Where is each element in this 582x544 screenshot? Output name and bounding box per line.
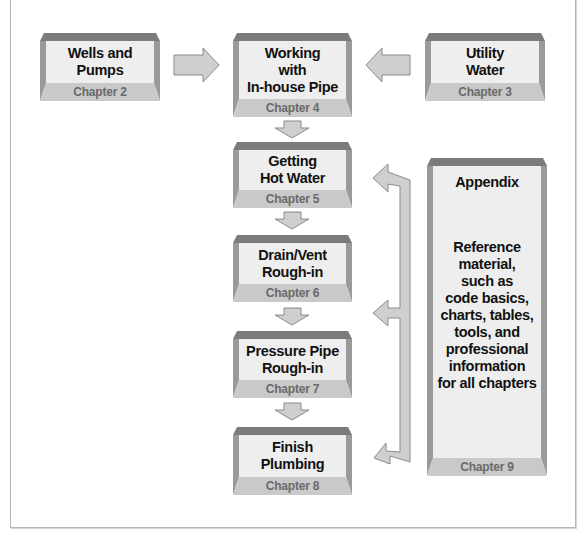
flow-arrows — [0, 0, 582, 544]
bracket-arrow-icon — [373, 164, 410, 464]
arrow-right-icon — [174, 48, 219, 82]
arrow-down-icon — [275, 121, 309, 138]
arrow-down-icon — [275, 308, 309, 325]
arrow-down-icon — [275, 403, 309, 420]
arrow-left-icon — [366, 48, 410, 82]
arrow-down-icon — [275, 212, 309, 229]
